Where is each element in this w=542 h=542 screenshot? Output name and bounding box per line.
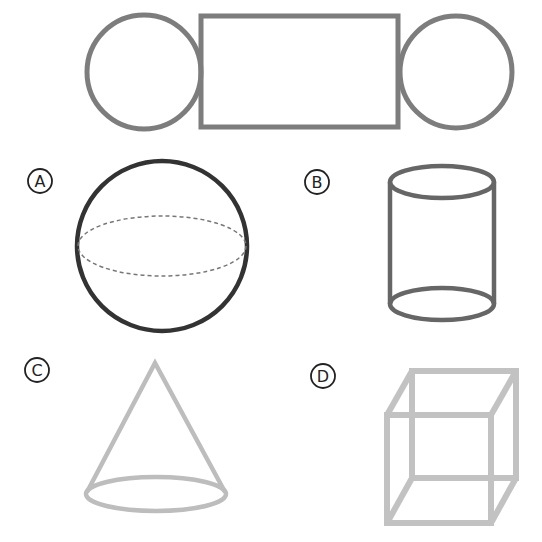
sphere-equator-dashed (78, 216, 246, 276)
option-d[interactable]: D (311, 364, 516, 523)
cube-shape (387, 371, 516, 523)
net-rectangle (201, 16, 398, 127)
cylinder-top (390, 166, 494, 198)
net-left-circle (87, 15, 201, 129)
figure-canvas: A B C D (0, 0, 542, 542)
cube-back-face (412, 371, 516, 478)
net-figure (87, 15, 512, 129)
option-d-label-badge: D (311, 364, 335, 388)
cone-shape (86, 363, 226, 511)
option-b-label-badge: B (305, 170, 329, 194)
option-a[interactable]: A (28, 161, 247, 331)
net-right-circle (400, 16, 512, 128)
option-a-label-badge: A (28, 169, 52, 193)
option-a-label: A (35, 172, 46, 191)
option-c-label-badge: C (25, 358, 49, 382)
option-b-label: B (312, 173, 323, 192)
cylinder-shape (390, 166, 494, 320)
cone-base (86, 477, 226, 511)
option-b[interactable]: B (305, 166, 494, 320)
cube-front-face (387, 415, 491, 523)
sphere-shape (77, 161, 247, 331)
option-d-label: D (317, 367, 329, 386)
option-c-label: C (31, 361, 42, 380)
option-c[interactable]: C (25, 358, 226, 511)
cylinder-bottom (390, 288, 494, 320)
